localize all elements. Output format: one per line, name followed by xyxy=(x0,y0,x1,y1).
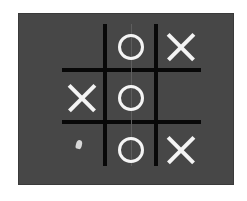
o-mark-icon xyxy=(118,85,144,111)
cell-r1-c2[interactable]: O xyxy=(109,25,153,69)
cell-r3-c2[interactable]: O xyxy=(109,128,153,172)
x-mark-icon xyxy=(167,33,195,61)
x-mark-icon xyxy=(167,136,195,164)
o-mark-icon xyxy=(118,137,144,163)
game-board: O X X O O X xyxy=(18,13,234,185)
cell-r2-c1[interactable]: X xyxy=(60,76,104,120)
cell-r1-c1[interactable] xyxy=(58,25,102,69)
grid-line-vertical-2 xyxy=(154,24,158,166)
o-mark-icon xyxy=(118,34,144,60)
x-mark-icon xyxy=(68,84,96,112)
cell-r3-c1[interactable] xyxy=(58,128,102,172)
cell-r1-c3[interactable]: X xyxy=(159,25,203,69)
cell-r3-c3[interactable]: X xyxy=(159,128,203,172)
cell-r2-c2[interactable]: O xyxy=(109,76,153,120)
cell-r2-c3[interactable] xyxy=(159,76,203,120)
